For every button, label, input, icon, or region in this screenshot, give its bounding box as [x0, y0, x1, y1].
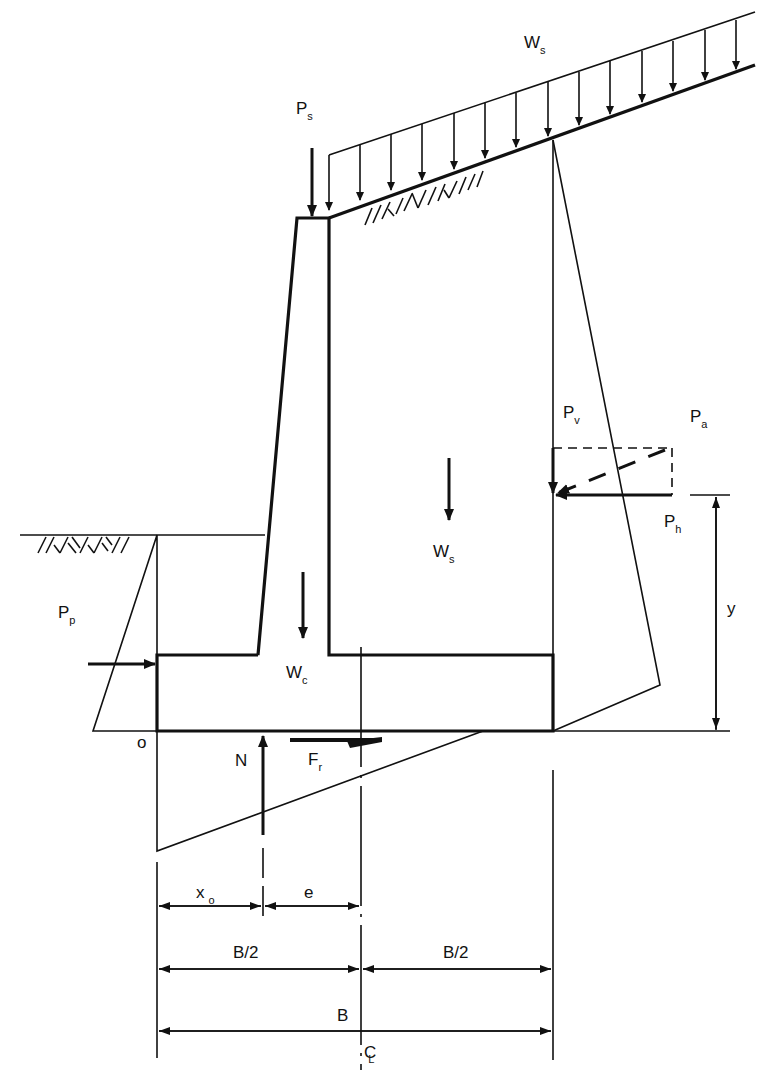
label-centerline: CL [364, 1043, 376, 1065]
label-surcharge: Ws [524, 33, 546, 56]
front-ground [20, 535, 265, 553]
label-active-horizontal: Ph [664, 512, 681, 535]
base-pressure-diagram [157, 731, 483, 851]
retaining-wall [157, 218, 553, 731]
friction-force-arrow [290, 737, 382, 748]
label-normal-force: N [235, 751, 247, 770]
label-half-right: B/2 [443, 943, 469, 962]
label-origin: o [137, 733, 146, 752]
label-e: e [304, 883, 313, 902]
label-friction: Fr [308, 750, 322, 773]
surcharge-top-line [329, 12, 755, 155]
label-concrete-weight: Wc [286, 663, 308, 686]
surcharge-load [329, 12, 755, 218]
label-half-left: B/2 [233, 943, 259, 962]
passive-pressure-diagram [88, 535, 157, 731]
active-pressure-diagram [553, 140, 730, 731]
wall-outline [157, 218, 553, 731]
backfill-slope-line [329, 65, 755, 218]
label-x0: xo [196, 883, 215, 906]
label-active-resultant: Pa [690, 407, 708, 430]
label-point-load: Ps [296, 99, 313, 122]
label-b: B [337, 1006, 348, 1025]
label-passive: Pp [58, 603, 75, 626]
retaining-wall-diagram: Ws Ps Pv Pa Ph Ws Pp Wc y o N Fr xo e B/… [0, 0, 771, 1087]
active-resultant-arrow [558, 450, 665, 493]
label-soil-weight: Ws [433, 542, 455, 565]
label-active-vertical: Pv [563, 403, 580, 426]
label-y: y [727, 599, 736, 618]
y-dimension [690, 495, 730, 730]
